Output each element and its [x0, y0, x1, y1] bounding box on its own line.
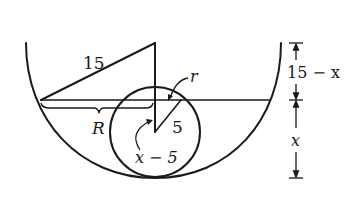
- dim-arrow-down-icon: [294, 93, 299, 99]
- label-x-minus-5: x − 5: [135, 148, 178, 167]
- bowl-diagram: 15 R 5 r x − 5 15 − x x: [0, 0, 355, 201]
- label-ball-radius: 5: [172, 117, 183, 137]
- x-minus-5-arrowhead-icon: [146, 119, 153, 125]
- x-minus-5-arrow: [136, 121, 150, 150]
- dim-arrow-up-icon: [294, 44, 299, 50]
- label-r: r: [190, 67, 199, 86]
- label-x: x: [291, 131, 300, 150]
- label-water-radius: R: [91, 118, 105, 138]
- label-15-minus-x: 15 − x: [287, 63, 340, 82]
- dim-arrow-down-2-icon: [294, 171, 299, 177]
- label-hypotenuse: 15: [83, 53, 105, 73]
- r-brace: [41, 103, 153, 113]
- dim-arrow-up-2-icon: [294, 101, 299, 107]
